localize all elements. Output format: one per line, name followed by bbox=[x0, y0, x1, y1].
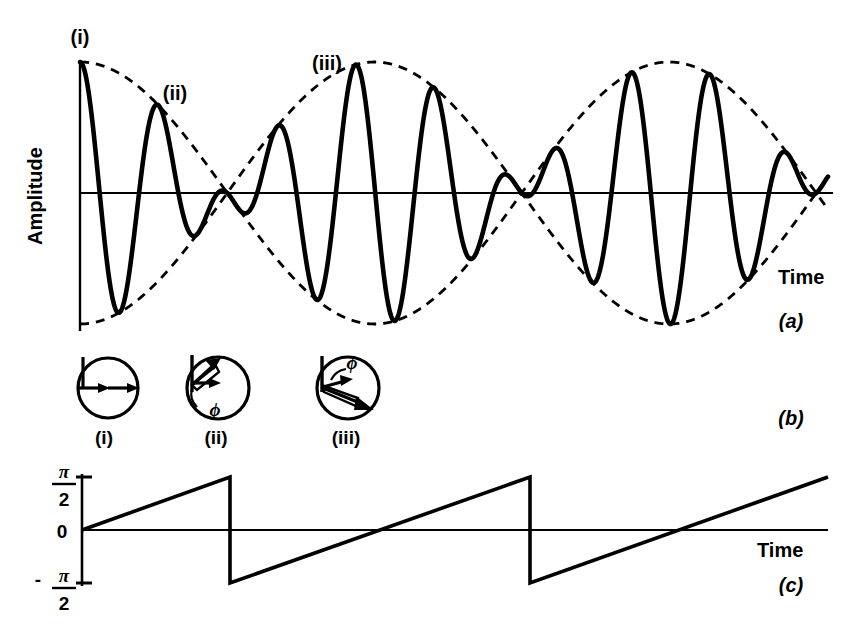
figure-root: Amplitude Time (a) (i) (ii) (iii) ( bbox=[0, 0, 863, 633]
panel-c-ytick-minus-numerator: π bbox=[59, 565, 70, 586]
phasor-iii-phi-label: ϕ bbox=[347, 352, 358, 373]
panel-a-marker-i: (i) bbox=[71, 26, 90, 48]
panel-a-marker-ii: (ii) bbox=[163, 82, 187, 104]
phasor-i-label: (i) bbox=[95, 427, 113, 448]
panel-b-id: (b) bbox=[778, 407, 804, 429]
panel-a-id: (a) bbox=[779, 310, 804, 332]
panel-c-ytick-plus-numerator: π bbox=[59, 461, 70, 482]
panel-c-ytick-minus-sign: - bbox=[35, 569, 41, 590]
phasor-ii-label: (ii) bbox=[204, 427, 227, 448]
panel-c-ytick-minus-denominator: 2 bbox=[59, 593, 70, 614]
panel-c-id: (c) bbox=[779, 574, 804, 596]
panel-c-ytick-plus-denominator: 2 bbox=[59, 489, 70, 510]
figure-canvas: Amplitude Time (a) (i) (ii) (iii) ( bbox=[0, 0, 863, 633]
panel-c-ytick-label-zero: 0 bbox=[57, 521, 68, 542]
panel-a-y-axis-label: Amplitude bbox=[24, 147, 46, 245]
panel-a-marker-iii: (iii) bbox=[312, 52, 342, 74]
panel-a-x-axis-label: Time bbox=[778, 266, 824, 288]
phasor-ii-phi-label: ϕ bbox=[210, 399, 221, 420]
figure-background bbox=[0, 0, 863, 633]
panel-c-x-axis-label: Time bbox=[757, 539, 803, 561]
phasor-iii-label: (iii) bbox=[332, 427, 361, 448]
